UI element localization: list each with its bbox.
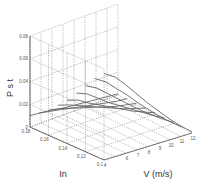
grid-line — [63, 115, 137, 150]
x-tick-label: 8 — [148, 150, 151, 155]
grid-line — [118, 95, 192, 133]
z-tick-label: 0.04 — [19, 79, 28, 84]
y-axis-label: In — [59, 169, 67, 179]
y-tick-label: 0.1 — [97, 162, 104, 167]
chart-tick-labels: 00.020.040.060.080.180.160.140.120.14678… — [19, 34, 196, 169]
y-tick-label: 0.14 — [59, 146, 68, 151]
grid-line — [67, 114, 155, 144]
3d-line-chart: 00.020.040.060.080.180.160.140.120.14678… — [0, 0, 206, 194]
z-axis-label: P s t — [5, 79, 15, 97]
x-tick-label: 9 — [159, 146, 162, 151]
y-tick-label: 0.16 — [40, 137, 49, 142]
x-axis-label: V (m/s) — [144, 169, 173, 179]
x-tick-label: 11 — [180, 139, 185, 144]
x-tick-label: 7 — [137, 153, 140, 158]
x-tick-label: 12 — [190, 136, 196, 141]
y-tick-label: 0.18 — [22, 129, 31, 134]
series-line — [104, 74, 192, 132]
z-tick-label: 0.08 — [19, 34, 28, 39]
x-tick-label: 6 — [126, 156, 129, 161]
chart-series — [30, 74, 192, 132]
x-axis-line — [104, 133, 192, 160]
z-tick-label: 0.02 — [19, 102, 28, 107]
chart-grid — [30, 4, 192, 160]
x-tick-label: 4 — [104, 163, 107, 168]
grid-line — [107, 99, 181, 136]
x-tick-label: 10 — [168, 143, 174, 148]
y-axis-line — [30, 127, 104, 160]
y-tick-label: 0.12 — [77, 154, 86, 159]
z-tick-label: 0.06 — [19, 56, 28, 61]
chart-axes — [30, 36, 192, 160]
